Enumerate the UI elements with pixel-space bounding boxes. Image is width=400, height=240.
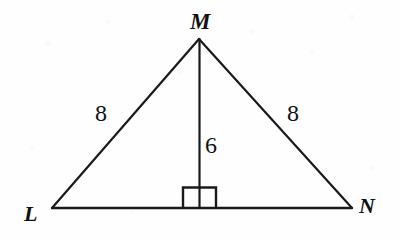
diagram-canvas: M L N 8 8 6 bbox=[0, 0, 400, 240]
right-vertex-label: N bbox=[359, 195, 375, 217]
altitude-length-label: 6 bbox=[205, 133, 217, 157]
left-leg-length-label: 8 bbox=[95, 101, 107, 125]
right-leg-length-label: 8 bbox=[287, 101, 299, 125]
apex-vertex-label: M bbox=[190, 10, 210, 33]
side-MN bbox=[199, 39, 352, 208]
triangle-figure bbox=[0, 0, 400, 240]
left-vertex-label: L bbox=[24, 203, 37, 225]
side-LM bbox=[52, 39, 199, 208]
